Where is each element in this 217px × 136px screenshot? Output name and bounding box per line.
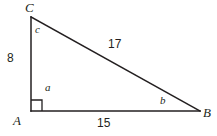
vertex-label-b: B	[203, 106, 211, 119]
side-cb-hypotenuse-line	[31, 17, 200, 111]
side-length-label-ab: 15	[97, 117, 110, 129]
vertex-label-c: C	[25, 1, 34, 14]
vertex-label-a: A	[13, 114, 21, 127]
side-length-label-cb: 17	[108, 38, 121, 50]
right-triangle-figure: C A B c a b 8 17 15	[0, 0, 217, 136]
angle-label-c: c	[35, 24, 40, 35]
angle-label-a: a	[45, 82, 51, 93]
right-angle-square-icon	[31, 100, 42, 111]
side-length-label-ac: 8	[7, 52, 14, 64]
angle-label-b: b	[160, 95, 166, 106]
